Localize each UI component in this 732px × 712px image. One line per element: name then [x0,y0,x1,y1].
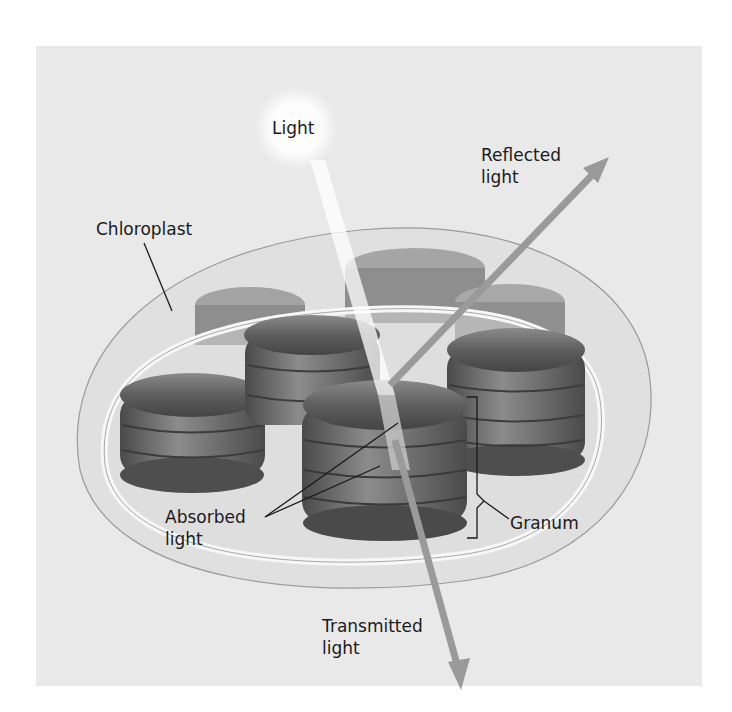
granum-stack-right [447,328,585,476]
label-transmitted-light: Transmitted light [322,615,423,659]
granum-stack-left [120,373,265,493]
label-granum: Granum [510,512,579,534]
chloroplast-diagram [0,0,732,712]
label-reflected-light: Reflected light [481,144,561,188]
label-chloroplast: Chloroplast [96,218,192,240]
label-absorbed-light: Absorbed light [165,506,246,550]
label-light: Light [272,117,314,139]
